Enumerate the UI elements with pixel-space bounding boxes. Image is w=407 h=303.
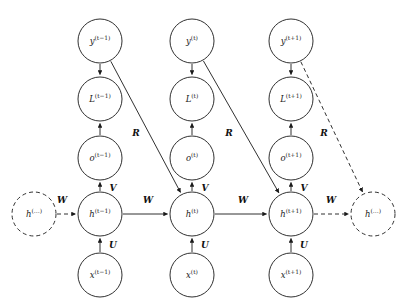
node-o_tm1: o(t−1) bbox=[78, 136, 122, 180]
weight-label-r_mid: R bbox=[224, 128, 233, 138]
node-circle-o_tm1 bbox=[78, 136, 122, 180]
edge-y_tm1-to-h_t bbox=[111, 61, 181, 192]
node-circle-h_t bbox=[170, 192, 214, 236]
node-x_tp1: x(t+1) bbox=[269, 253, 313, 297]
weight-label-w_mid2: W bbox=[238, 195, 249, 205]
node-L_tp1: L(t+1) bbox=[269, 77, 313, 121]
node-circle-x_tp1 bbox=[269, 253, 313, 297]
node-circle-h_next_ellipsis bbox=[351, 192, 395, 236]
weight-label-u_mid: U bbox=[201, 240, 210, 250]
node-layer: h(…)h(t−1)h(t)h(t+1)h(…)x(t−1)x(t)x(t+1)… bbox=[12, 19, 395, 297]
node-x_tm1: x(t−1) bbox=[78, 253, 122, 297]
node-circle-o_tp1 bbox=[269, 136, 313, 180]
node-circle-h_tm1 bbox=[78, 192, 122, 236]
edge-y_t-to-h_tp1 bbox=[203, 61, 278, 193]
node-x_t: x(t) bbox=[170, 253, 214, 297]
edge-y_tp1-to-h_next_ellipsis bbox=[301, 62, 363, 192]
node-h_tp1: h(t+1) bbox=[269, 192, 313, 236]
node-y_t: y(t) bbox=[170, 19, 214, 63]
weight-label-u_left: U bbox=[109, 240, 118, 250]
node-h_next_ellipsis: h(…) bbox=[351, 192, 395, 236]
weight-label-w_right: W bbox=[326, 195, 337, 205]
node-L_t: L(t) bbox=[170, 77, 214, 121]
weight-label-v_right: V bbox=[301, 183, 309, 193]
node-y_tm1: y(t−1) bbox=[78, 19, 122, 63]
node-circle-x_tm1 bbox=[78, 253, 122, 297]
diagram-canvas: h(…)h(t−1)h(t)h(t+1)h(…)x(t−1)x(t)x(t+1)… bbox=[0, 0, 407, 303]
weight-label-r_right: R bbox=[319, 128, 328, 138]
weight-label-w_mid1: W bbox=[143, 195, 154, 205]
node-circle-y_tp1 bbox=[269, 19, 313, 63]
node-h_prev_ellipsis: h(…) bbox=[12, 192, 56, 236]
node-circle-y_tm1 bbox=[78, 19, 122, 63]
node-circle-L_tm1 bbox=[78, 77, 122, 121]
node-h_tm1: h(t−1) bbox=[78, 192, 122, 236]
node-o_t: o(t) bbox=[170, 136, 214, 180]
node-circle-h_tp1 bbox=[269, 192, 313, 236]
weight-label-w_left: W bbox=[57, 195, 68, 205]
node-h_t: h(t) bbox=[170, 192, 214, 236]
node-circle-L_tp1 bbox=[269, 77, 313, 121]
weight-label-v_mid: V bbox=[202, 183, 210, 193]
node-circle-x_t bbox=[170, 253, 214, 297]
node-L_tm1: L(t−1) bbox=[78, 77, 122, 121]
node-circle-y_t bbox=[170, 19, 214, 63]
weight-label-v_left: V bbox=[110, 183, 118, 193]
node-circle-o_t bbox=[170, 136, 214, 180]
node-y_tp1: y(t+1) bbox=[269, 19, 313, 63]
weight-label-u_right: U bbox=[300, 240, 309, 250]
rnn-unfolded-diagram: h(…)h(t−1)h(t)h(t+1)h(…)x(t−1)x(t)x(t+1)… bbox=[0, 0, 407, 303]
node-circle-h_prev_ellipsis bbox=[12, 192, 56, 236]
node-circle-L_t bbox=[170, 77, 214, 121]
node-o_tp1: o(t+1) bbox=[269, 136, 313, 180]
weight-label-r_left: R bbox=[131, 128, 140, 138]
